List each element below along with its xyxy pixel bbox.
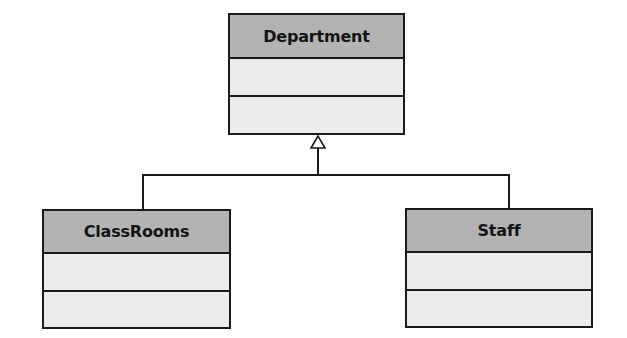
class-name-staff: Staff xyxy=(407,210,591,253)
attributes-section xyxy=(44,254,229,292)
class-classrooms: ClassRooms xyxy=(42,209,231,329)
attributes-section xyxy=(230,59,403,97)
class-staff: Staff xyxy=(405,208,593,328)
operations-section xyxy=(407,291,591,326)
operations-section xyxy=(230,97,403,133)
class-department: Department xyxy=(228,13,405,135)
class-name-classrooms: ClassRooms xyxy=(44,211,229,254)
class-name-department: Department xyxy=(230,15,403,59)
attributes-section xyxy=(407,253,591,291)
generalization-arrowhead-icon xyxy=(311,136,325,148)
operations-section xyxy=(44,292,229,327)
